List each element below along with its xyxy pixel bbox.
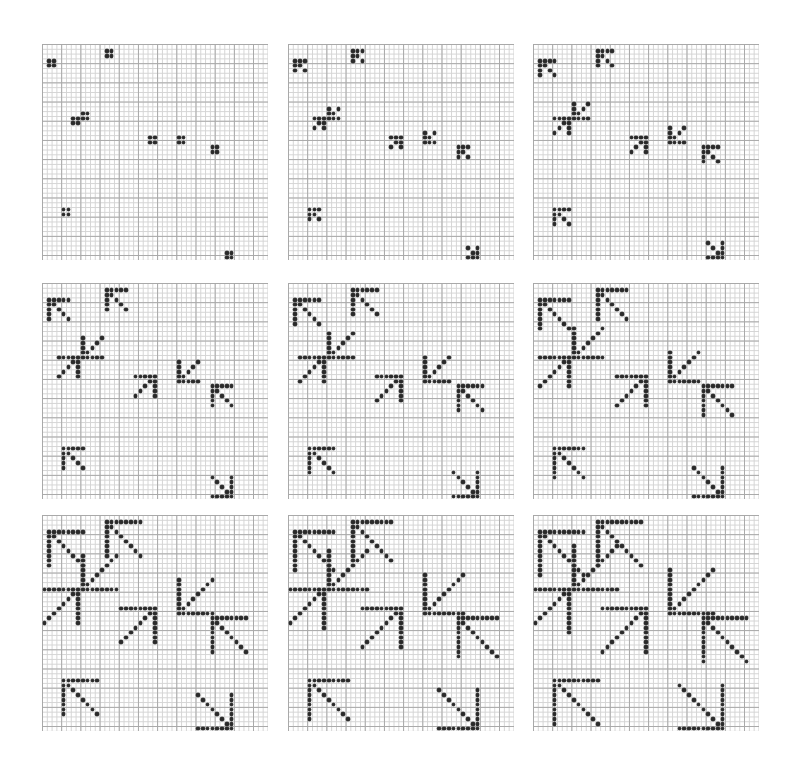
cell-dot xyxy=(196,360,200,364)
cell-dot xyxy=(538,616,542,620)
cell-dot xyxy=(721,251,725,255)
cell-dot xyxy=(308,213,312,217)
cell-dot xyxy=(721,466,725,470)
cell-dot xyxy=(211,621,215,625)
cell-dot xyxy=(351,49,355,53)
cell-dot xyxy=(341,588,345,592)
cell-dot xyxy=(558,452,562,456)
cell-dot xyxy=(182,607,186,611)
cell-dot xyxy=(191,365,195,369)
cell-dot xyxy=(303,588,307,592)
cell-dot xyxy=(634,375,638,379)
cell-dot xyxy=(543,298,547,302)
cell-dot xyxy=(201,612,205,616)
cell-dot xyxy=(553,544,557,548)
cell-dot xyxy=(596,317,600,321)
cell-dot xyxy=(596,303,600,307)
cell-dot xyxy=(81,588,85,592)
cell-dot xyxy=(153,621,157,625)
cell-dot xyxy=(630,389,634,393)
cell-dot xyxy=(308,688,312,692)
cell-dot xyxy=(673,141,677,145)
cell-dot xyxy=(211,384,215,388)
cell-dot xyxy=(313,126,317,130)
cell-dot xyxy=(461,480,465,484)
cell-dot xyxy=(476,384,480,388)
cell-dot xyxy=(341,712,345,716)
cell-dot xyxy=(322,693,326,697)
cell-dot xyxy=(601,293,605,297)
cell-dot xyxy=(225,399,229,403)
cell-dot xyxy=(673,380,677,384)
cell-dot xyxy=(351,554,355,558)
cell-dot xyxy=(726,384,730,388)
cell-dot xyxy=(124,636,128,640)
cell-dot xyxy=(375,375,379,379)
cell-dot xyxy=(100,588,104,592)
cell-dot xyxy=(215,712,219,716)
cell-dot xyxy=(385,554,389,558)
grid-panel-generation-7 xyxy=(42,515,268,731)
cell-dot xyxy=(327,583,331,587)
cell-dot xyxy=(721,717,725,721)
cell-dot xyxy=(47,564,51,568)
cell-dot xyxy=(596,298,600,302)
cell-dot xyxy=(692,466,696,470)
cell-dot xyxy=(308,708,312,712)
cell-dot xyxy=(76,461,80,465)
cell-dot xyxy=(437,597,441,601)
cell-dot xyxy=(211,394,215,398)
cell-dot xyxy=(211,389,215,393)
cell-dot xyxy=(543,64,547,68)
cell-dot xyxy=(313,549,317,553)
cell-dot xyxy=(76,121,80,125)
cell-dot xyxy=(47,559,51,563)
cell-dot xyxy=(687,380,691,384)
cell-dot xyxy=(308,717,312,721)
cell-dot xyxy=(177,370,181,374)
cell-dot xyxy=(673,612,677,616)
cell-dot xyxy=(442,693,446,697)
cell-dot xyxy=(119,535,123,539)
cell-dot xyxy=(682,380,686,384)
cell-dot xyxy=(721,246,725,250)
cell-dot xyxy=(62,452,66,456)
cell-dot xyxy=(153,136,157,140)
cell-dot xyxy=(471,722,475,726)
cell-dot xyxy=(196,727,200,731)
cell-dot xyxy=(62,298,66,302)
cell-dot xyxy=(215,480,219,484)
cell-dot xyxy=(62,708,66,712)
cell-dot xyxy=(678,684,682,688)
cell-dot xyxy=(567,298,571,302)
cell-dot xyxy=(148,141,152,145)
cell-dot xyxy=(380,549,384,553)
cell-dot xyxy=(644,141,648,145)
cell-dot xyxy=(553,712,557,716)
cell-dot xyxy=(385,621,389,625)
cell-dot xyxy=(293,322,297,326)
cell-dot xyxy=(538,59,542,63)
cell-dot xyxy=(668,612,672,616)
cell-dot xyxy=(327,564,331,568)
cell-dot xyxy=(313,213,317,217)
cell-dot xyxy=(721,485,725,489)
cell-dot xyxy=(601,607,605,611)
cell-dot xyxy=(490,616,494,620)
cell-dot xyxy=(67,549,71,553)
cell-dot xyxy=(327,351,331,355)
cell-dot xyxy=(322,447,326,451)
cell-dot xyxy=(471,616,475,620)
cell-dot xyxy=(461,612,465,616)
cell-dot xyxy=(553,131,557,135)
cell-dot xyxy=(81,341,85,345)
cell-dot xyxy=(726,640,730,644)
cell-dot xyxy=(730,645,734,649)
cell-dot xyxy=(119,520,123,524)
cell-dot xyxy=(586,341,590,345)
cell-dot xyxy=(225,727,229,731)
cell-dot xyxy=(365,549,369,553)
cell-dot xyxy=(187,380,191,384)
cell-dot xyxy=(351,564,355,568)
cell-dot xyxy=(91,679,95,683)
